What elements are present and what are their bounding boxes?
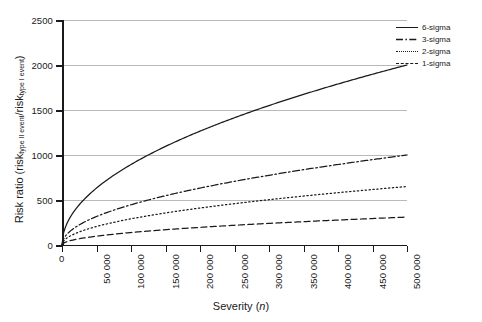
x-axis-tick	[235, 246, 236, 252]
x-axis-tick-label: 500 000	[411, 254, 422, 289]
x-axis-tick-label: 300 000	[273, 254, 284, 289]
legend-swatch-3-sigma	[396, 35, 418, 44]
x-axis-tick	[373, 246, 374, 252]
x-axis-tick	[62, 246, 63, 252]
legend-label: 3-sigma	[422, 35, 450, 44]
x-axis-tick-label: 400 000	[342, 254, 353, 289]
curve-3-sigma	[62, 155, 407, 245]
x-axis-tick	[200, 246, 201, 252]
curve-6-sigma	[62, 65, 407, 245]
x-axis-tick-label: 200 000	[204, 254, 215, 289]
x-axis-tick	[97, 246, 98, 252]
legend-label: 2-sigma	[422, 47, 450, 56]
legend-item-1-sigma: 1-sigma	[396, 58, 450, 69]
y-axis-tick-label: 1500	[31, 105, 53, 116]
x-axis-tick-label: 350 000	[308, 254, 319, 289]
y-axis-title: Risk ratio (risktype II event/risktype I…	[13, 24, 26, 254]
plot-area	[62, 20, 407, 245]
legend-item-2-sigma: 2-sigma	[396, 46, 450, 57]
legend-item-6-sigma: 6-sigma	[396, 22, 450, 33]
x-axis-tick	[166, 246, 167, 252]
x-axis-title: Severity (n)	[0, 300, 482, 312]
legend-label: 1-sigma	[422, 59, 450, 68]
legend-swatch-1-sigma	[396, 59, 418, 68]
x-axis-tick-label: 150 000	[170, 254, 181, 289]
x-axis-tick-label: 100 000	[135, 254, 146, 289]
y-axis-tick	[56, 200, 63, 202]
legend-swatch-6-sigma	[396, 23, 418, 32]
chart-legend: 6-sigma3-sigma2-sigma1-sigma	[396, 22, 450, 70]
curve-2-sigma	[62, 187, 407, 246]
y-axis-tick-labels: 05001000150020002500	[0, 0, 53, 322]
legend-label: 6-sigma	[422, 23, 450, 32]
y-axis-tick-label: 0	[48, 240, 53, 251]
y-axis-tick	[56, 155, 63, 157]
y-axis-tick-label: 1000	[31, 150, 53, 161]
x-axis-tick	[338, 246, 339, 252]
y-axis-tick-label: 2500	[31, 15, 53, 26]
y-axis-tick	[56, 20, 63, 22]
chart-figure: 05001000150020002500 Risk ratio (risktyp…	[0, 0, 482, 322]
x-axis-tick-label: 250 000	[239, 254, 250, 289]
x-axis-tick-label: 50 000	[101, 254, 112, 284]
x-axis-tick	[407, 246, 408, 252]
y-axis-tick	[56, 65, 63, 67]
y-axis-spine	[62, 20, 64, 245]
x-axis-tick-label: 450 000	[377, 254, 388, 289]
y-axis-tick	[56, 110, 63, 112]
data-curves	[62, 20, 407, 245]
curve-1-sigma	[62, 217, 407, 245]
x-axis-tick	[269, 246, 270, 252]
y-axis-tick-label: 500	[37, 195, 53, 206]
x-axis-tick	[304, 246, 305, 252]
legend-swatch-2-sigma	[396, 47, 418, 56]
x-axis-tick	[131, 246, 132, 252]
x-axis-tick-label: 0	[59, 253, 64, 264]
legend-item-3-sigma: 3-sigma	[396, 34, 450, 45]
y-axis-tick-label: 2000	[31, 60, 53, 71]
